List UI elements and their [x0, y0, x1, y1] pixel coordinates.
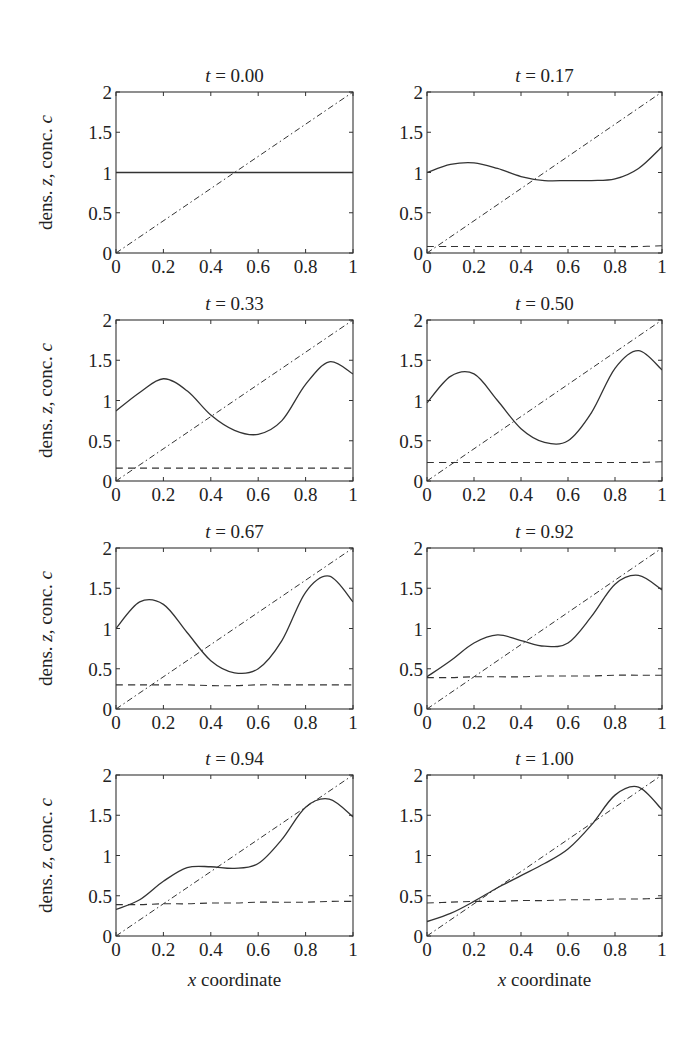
y-tick-label: 0 [414, 471, 424, 492]
x-tick-label: 0.2 [462, 712, 486, 733]
x-tick-label: 0 [422, 256, 432, 277]
y-tick-label: 2 [103, 538, 113, 559]
y-tick-label: 2 [103, 82, 113, 103]
y-tick-label: 0 [414, 243, 424, 264]
subplot-title: t = 0.17 [515, 65, 574, 86]
y-tick-label: 0 [414, 926, 424, 947]
x-tick-label: 0.4 [199, 712, 223, 733]
x-tick-label: 0.4 [509, 712, 533, 733]
x-tick-label: 0 [111, 712, 121, 733]
density-line [116, 799, 353, 910]
plot-area [427, 775, 662, 936]
y-tick-label: 0 [103, 699, 113, 720]
x-tick-label: 0.2 [152, 939, 176, 960]
x-tick-label: 0.4 [199, 484, 223, 505]
density-line [427, 786, 662, 921]
subplot-8: t = 1.0000.20.40.60.8100.511.52x coordin… [399, 748, 667, 990]
plot-area [116, 548, 353, 709]
x-tick-label: 0.6 [556, 256, 580, 277]
x-tick-label: 1 [657, 256, 667, 277]
x-tick-label: 0.2 [152, 712, 176, 733]
y-axis-label: dens. z, conc. c [35, 114, 56, 230]
reference-line [116, 775, 353, 936]
subplot-title: t = 0.00 [205, 65, 264, 86]
x-axis-label: x coordinate [497, 969, 591, 990]
x-tick-label: 0.8 [603, 939, 627, 960]
subplot-title: t = 0.33 [205, 293, 264, 314]
x-axis-label: x coordinate [187, 969, 281, 990]
concentration-line [427, 462, 662, 463]
reference-line [427, 548, 662, 709]
x-tick-label: 1 [348, 256, 358, 277]
plot-area [116, 92, 353, 253]
x-tick-label: 0 [422, 712, 432, 733]
plot-area [427, 548, 662, 709]
density-line [427, 147, 662, 181]
x-tick-label: 0.2 [462, 484, 486, 505]
x-tick-label: 1 [348, 712, 358, 733]
y-tick-label: 2 [414, 82, 424, 103]
density-line [116, 576, 353, 674]
subplot-7: t = 0.9400.20.40.60.8100.511.52dens. z, … [35, 748, 358, 990]
x-tick-label: 0.4 [509, 939, 533, 960]
y-tick-label: 2 [414, 765, 424, 786]
plot-area [116, 775, 353, 936]
x-tick-label: 0.8 [603, 256, 627, 277]
y-axis-label: dens. z, conc. c [35, 570, 56, 686]
y-tick-label: 2 [103, 765, 113, 786]
subplot-title: t = 0.94 [205, 748, 264, 769]
reference-line [116, 548, 353, 709]
y-tick-label: 2 [414, 310, 424, 331]
y-tick-label: 0.5 [399, 203, 423, 224]
x-tick-label: 0 [111, 484, 121, 505]
y-tick-label: 2 [414, 538, 424, 559]
y-tick-label: 0.5 [399, 886, 423, 907]
x-tick-label: 0.4 [199, 939, 223, 960]
y-tick-label: 0.5 [88, 886, 112, 907]
y-tick-label: 0 [103, 926, 113, 947]
x-tick-label: 0.8 [294, 939, 318, 960]
plot-area [427, 320, 662, 481]
subplot-3: t = 0.3300.20.40.60.8100.511.52dens. z, … [35, 293, 358, 505]
y-tick-label: 0 [414, 699, 424, 720]
y-tick-label: 1.5 [399, 350, 423, 371]
x-tick-label: 0.2 [462, 939, 486, 960]
reference-line [427, 92, 662, 253]
x-tick-label: 0.2 [462, 256, 486, 277]
x-tick-label: 1 [657, 939, 667, 960]
density-line [427, 575, 662, 677]
y-tick-label: 1 [103, 391, 113, 412]
figure-grid: t = 0.0000.20.40.60.8100.511.52dens. z, … [0, 0, 699, 1050]
x-tick-label: 0 [111, 256, 121, 277]
concentration-line [427, 675, 662, 678]
y-tick-label: 1 [414, 846, 424, 867]
x-tick-label: 0.8 [603, 712, 627, 733]
y-tick-label: 0 [103, 243, 113, 264]
y-tick-label: 0.5 [399, 431, 423, 452]
x-tick-label: 0.6 [246, 484, 270, 505]
density-line [116, 362, 353, 435]
y-tick-label: 1.5 [88, 578, 112, 599]
x-tick-label: 0.6 [246, 939, 270, 960]
y-tick-label: 1.5 [88, 350, 112, 371]
y-tick-label: 1 [414, 163, 424, 184]
x-tick-label: 0.2 [152, 256, 176, 277]
x-tick-label: 1 [657, 712, 667, 733]
reference-line [427, 320, 662, 481]
y-tick-label: 0.5 [88, 431, 112, 452]
concentration-line [427, 246, 662, 247]
y-axis-label: dens. z, conc. c [35, 342, 56, 458]
y-tick-label: 1 [103, 619, 113, 640]
subplot-1: t = 0.0000.20.40.60.8100.511.52dens. z, … [35, 65, 358, 277]
concentration-line [427, 898, 662, 903]
x-tick-label: 1 [348, 939, 358, 960]
x-tick-label: 0.8 [294, 712, 318, 733]
subplot-title: t = 1.00 [515, 748, 574, 769]
x-tick-label: 0.8 [294, 484, 318, 505]
x-tick-label: 0.8 [294, 256, 318, 277]
x-tick-label: 1 [348, 484, 358, 505]
x-tick-label: 0.8 [603, 484, 627, 505]
x-tick-label: 0.4 [509, 484, 533, 505]
y-tick-label: 0.5 [399, 659, 423, 680]
x-tick-label: 0.6 [246, 712, 270, 733]
